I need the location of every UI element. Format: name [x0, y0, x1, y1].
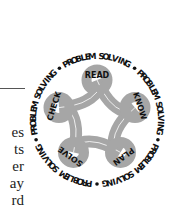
ring-text-char: G — [101, 178, 109, 189]
ring-separator-bullet — [34, 138, 38, 142]
ring-separator-bullet — [95, 182, 99, 186]
ring-separator-bullet — [58, 66, 62, 70]
ring-text-char: G — [154, 128, 165, 137]
ring-text-char: M — [88, 51, 97, 62]
step-label-read: READ — [85, 71, 110, 80]
ring-separator-bullet — [156, 138, 160, 142]
ring-separator-bullet — [133, 66, 137, 70]
problem-solving-logo: PROBLEM SOLVINGPROBLEM SOLVINGPROBLEM SO… — [0, 0, 175, 221]
